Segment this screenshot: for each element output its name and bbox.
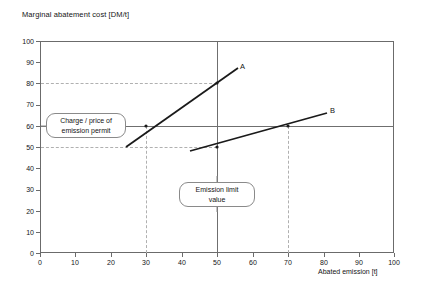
series-overlay [0,0,424,292]
emission-limit-callout[interactable]: Emission limit value [179,182,255,207]
intersection-b-emission-limit [215,145,218,148]
series-line-b [190,113,327,151]
emission-limit-callout-line1: Emission limit [184,185,250,195]
intersection-a-emission-limit [215,81,218,84]
x-axis-title: Abated emission [t] [318,268,378,275]
charge-price-callout-line2: emission permit [51,126,121,136]
series-label-a: A [240,62,245,71]
charge-price-callout-line1: Charge / price of [51,116,121,126]
series-label-b: B [330,106,335,115]
emission-limit-callout-line2: value [184,195,250,205]
intersection-a-charge-price [144,124,147,127]
charge-price-callout[interactable]: Charge / price of emission permit [46,113,126,138]
intersection-b-charge-price [286,124,289,127]
series-line-a [126,68,238,147]
chart-container: Marginal abatement cost [DM/t] 100 90 80… [0,0,424,292]
